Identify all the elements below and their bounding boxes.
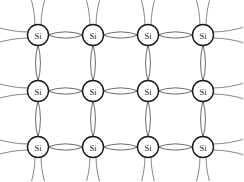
covalent-bond-vertical	[146, 101, 151, 138]
atom-circle	[28, 81, 49, 102]
bond-electron-curve	[38, 45, 41, 82]
atom-node-si-r2-c3: Si	[193, 137, 214, 158]
bond-electron-curve	[93, 101, 96, 138]
bond-electron-curve	[201, 45, 204, 82]
dangling-bond-left	[0, 138, 29, 156]
atom-circle	[193, 81, 214, 102]
atom-circle	[193, 137, 214, 158]
covalent-bond-horizontal	[103, 88, 139, 95]
dangling-bond-right	[213, 26, 244, 44]
dangling-bond-left	[0, 26, 29, 44]
dangling-electron-curve	[139, 0, 145, 26]
atom-circle	[193, 25, 214, 46]
dangling-electron-curve	[84, 157, 90, 182]
atom-node-si-r1-c0: Si	[28, 81, 49, 102]
bond-electron-curve	[48, 88, 84, 91]
dangling-bond-down	[139, 157, 157, 182]
dangling-electron-curve	[151, 157, 157, 182]
dangling-electron-curve	[213, 26, 244, 32]
bond-electron-curve	[103, 144, 139, 147]
dangling-bond-down	[84, 157, 102, 182]
dangling-electron-curve	[213, 150, 244, 156]
covalent-bond-horizontal	[103, 32, 139, 39]
covalent-bond-horizontal	[48, 88, 84, 95]
dangling-electron-curve	[0, 94, 29, 100]
atom-node-si-r2-c0: Si	[28, 137, 49, 158]
dangling-electron-curve	[0, 26, 29, 32]
atom-circle	[138, 25, 159, 46]
dangling-electron-curve	[151, 0, 157, 26]
bond-electron-curve	[203, 45, 206, 82]
dangling-bond-up	[84, 0, 102, 26]
bond-electron-curve	[36, 45, 39, 82]
atom-node-si-r1-c3: Si	[193, 81, 214, 102]
bond-electron-curve	[103, 91, 139, 94]
bond-electron-curve	[93, 45, 96, 82]
dangling-electron-curve	[96, 0, 102, 26]
bond-electron-curve	[158, 32, 194, 35]
covalent-bond-horizontal	[103, 144, 139, 151]
bond-electron-curve	[148, 101, 151, 138]
dangling-bond-up	[29, 0, 47, 26]
bond-electron-curve	[91, 101, 94, 138]
covalent-bond-horizontal	[48, 32, 84, 39]
atom-circle	[83, 25, 104, 46]
dangling-electron-curve	[0, 150, 29, 156]
dangling-electron-curve	[213, 138, 244, 144]
covalent-bond-vertical	[146, 45, 151, 82]
atom-circle	[138, 81, 159, 102]
bond-layer	[36, 32, 206, 151]
atom-circle	[83, 81, 104, 102]
atom-node-si-r2-c2: Si	[138, 137, 159, 158]
dangling-electron-curve	[0, 82, 29, 88]
bond-electron-curve	[203, 101, 206, 138]
bond-electron-curve	[201, 101, 204, 138]
covalent-bond-vertical	[91, 45, 96, 82]
bond-electron-curve	[48, 147, 84, 150]
atom-layer: SiSiSiSiSiSiSiSiSiSiSiSi	[28, 25, 214, 158]
dangling-electron-curve	[206, 157, 212, 182]
dangling-electron-curve	[0, 38, 29, 44]
dangling-electron-curve	[139, 157, 145, 182]
dangling-electron-curve	[213, 94, 244, 100]
bond-electron-curve	[48, 144, 84, 147]
dangling-bond-left	[0, 82, 29, 100]
bond-electron-curve	[38, 101, 41, 138]
covalent-bond-horizontal	[158, 144, 194, 151]
covalent-bond-vertical	[201, 45, 206, 82]
dangling-bond-down	[194, 157, 212, 182]
bond-electron-curve	[158, 144, 194, 147]
bond-electron-curve	[148, 45, 151, 82]
covalent-bond-horizontal	[48, 144, 84, 151]
bond-electron-curve	[103, 32, 139, 35]
covalent-bond-vertical	[36, 101, 41, 138]
atom-node-si-r0-c2: Si	[138, 25, 159, 46]
dangling-bond-right	[213, 82, 244, 100]
atom-circle	[28, 25, 49, 46]
silicon-lattice-figure: SiSiSiSiSiSiSiSiSiSiSiSi	[0, 0, 243, 181]
covalent-bond-horizontal	[158, 88, 194, 95]
covalent-bond-vertical	[201, 101, 206, 138]
bond-electron-curve	[48, 32, 84, 35]
atom-node-si-r0-c0: Si	[28, 25, 49, 46]
atom-circle	[83, 137, 104, 158]
bond-electron-curve	[48, 35, 84, 38]
atom-circle	[138, 137, 159, 158]
atom-node-si-r0-c1: Si	[83, 25, 104, 46]
bond-electron-curve	[146, 45, 149, 82]
bond-electron-curve	[48, 91, 84, 94]
atom-node-si-r0-c3: Si	[193, 25, 214, 46]
bond-electron-curve	[146, 101, 149, 138]
dangling-electron-curve	[194, 157, 200, 182]
dangling-electron-curve	[41, 157, 47, 182]
covalent-bond-horizontal	[158, 32, 194, 39]
dangling-electron-curve	[29, 157, 35, 182]
bond-electron-curve	[103, 88, 139, 91]
dangling-electron-curve	[213, 82, 244, 88]
dangling-bond-up	[194, 0, 212, 26]
atom-node-si-r1-c2: Si	[138, 81, 159, 102]
bond-electron-curve	[158, 147, 194, 150]
atom-circle	[28, 137, 49, 158]
covalent-bond-vertical	[91, 101, 96, 138]
bond-electron-curve	[91, 45, 94, 82]
